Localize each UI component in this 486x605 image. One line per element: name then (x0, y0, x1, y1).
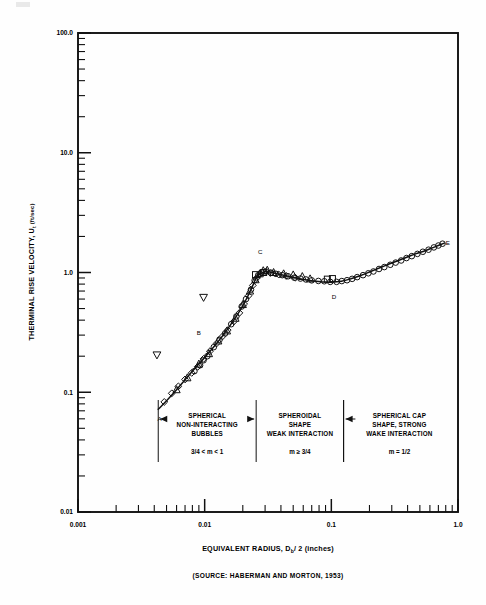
x-axis-title-part-b: / 2 (inches) (294, 544, 334, 553)
region-label-line: BUBBLES (191, 430, 223, 437)
x-axis-ticks (78, 499, 458, 512)
point-label-c: C (258, 248, 263, 255)
point-label-e: E (446, 239, 450, 246)
y-axis-title-main: THERMINAL RISE VELOCITY, U (27, 228, 36, 341)
y-tick-label: 1.0 (64, 269, 73, 276)
y-axis-tick-labels: 0.010.11.010.0100.0 (56, 29, 73, 515)
y-tick-label: 0.1 (64, 389, 73, 396)
region-arrowhead-right (247, 416, 254, 422)
x-axis-title: EQUIVALENT RADIUS, Db/ 2 (inches) (202, 544, 334, 554)
marker-triangle-down (153, 352, 161, 359)
fit-curve (158, 243, 444, 409)
region-label-line: WAKE INTERACTION (366, 430, 432, 437)
x-tick-label: 0.001 (70, 521, 87, 528)
region-annotations: SPHERICALNON-INTERACTINGBUBBLES3/4 < m <… (158, 400, 432, 462)
y-axis-ticks (78, 33, 91, 512)
y-tick-label: 10.0 (60, 149, 73, 156)
region-label-line: SHAPE (289, 421, 311, 428)
region-label-line: WEAK INTERACTION (267, 430, 334, 437)
y-tick-label: 100.0 (56, 29, 73, 36)
y-axis-title-unit: (ft/sec) (29, 203, 35, 224)
x-tick-label: 0.01 (198, 521, 211, 528)
region-m-value: 3/4 < m < 1 (191, 448, 224, 455)
data-markers (153, 241, 445, 405)
rise-velocity-chart: 0.010.11.010.0100.0 0.0010.010.11.0 ABCD… (0, 0, 486, 605)
x-axis-title-part-a: EQUIVALENT RADIUS, D (202, 544, 291, 553)
curve-point-labels: ABCDE (157, 239, 449, 422)
y-tick-label: 0.01 (60, 508, 73, 515)
region-label-line: SHAPE, STRONG (372, 421, 426, 429)
source-note: (SOURCE: HABERMAN AND MORTON, 1953) (193, 572, 344, 580)
region-label-line: SPHEROIDAL (278, 412, 321, 419)
x-axis-tick-labels: 0.0010.010.11.0 (70, 521, 463, 528)
svg-text:THERMINAL RISE VELOCITY, Ut (f: THERMINAL RISE VELOCITY, Ut (ft/sec) (27, 203, 37, 340)
region-m-value: m = 1/2 (389, 448, 411, 455)
x-tick-label: 1.0 (453, 521, 462, 528)
region-label-line: NON-INTERACTING (177, 421, 238, 428)
x-tick-label: 0.1 (327, 521, 336, 528)
y-axis-title: THERMINAL RISE VELOCITY, Ut (ft/sec) (27, 203, 37, 340)
point-label-d: D (332, 293, 337, 300)
region-label-line: SPHERICAL (188, 412, 226, 419)
scan-artifact (16, 2, 30, 7)
figure-container: 0.010.11.010.0100.0 0.0010.010.11.0 ABCD… (0, 0, 486, 605)
region-label-line: SPHERICAL CAP (373, 412, 426, 419)
point-label-b: B (197, 329, 201, 336)
region-arrowhead-left (346, 416, 353, 422)
region-m-value: m ≥ 3/4 (289, 448, 311, 455)
marker-triangle-down (200, 294, 208, 301)
